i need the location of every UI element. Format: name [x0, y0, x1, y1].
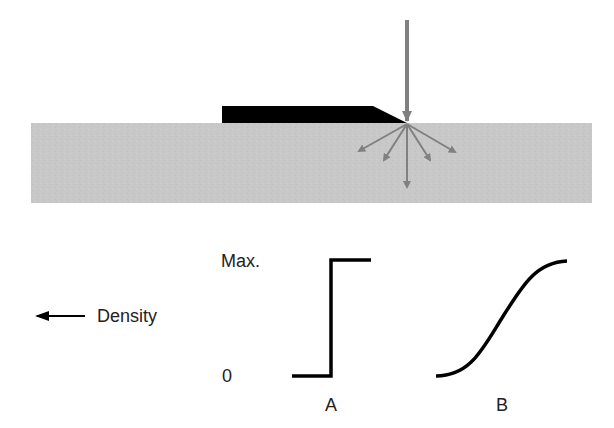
y-axis-zero-label: 0	[222, 367, 232, 385]
mask-layer	[222, 106, 407, 123]
substrate-slab	[31, 123, 592, 203]
profile-a-step-curve	[292, 260, 371, 376]
profile-a-label: A	[325, 396, 337, 414]
profile-b-label: B	[496, 396, 508, 414]
profile-b-sigmoid-curve	[436, 261, 567, 376]
y-axis-max-label: Max.	[221, 252, 260, 270]
diagram-canvas	[0, 0, 614, 428]
density-label: Density	[97, 307, 157, 325]
